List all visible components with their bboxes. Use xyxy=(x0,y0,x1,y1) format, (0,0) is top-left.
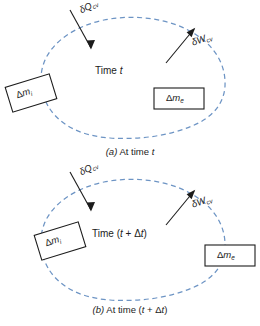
exit-mass-label-a-subscript: e xyxy=(180,97,184,104)
heat-arrow-b xyxy=(70,172,95,212)
caption-a: (a) At time t xyxy=(0,147,260,157)
work-arrow-b xyxy=(166,190,195,225)
caption-b-text: At time (t + Δt) xyxy=(106,304,167,315)
exit-mass-label-b: Δme xyxy=(217,250,235,260)
caption-a-prefix: (a) xyxy=(106,146,118,157)
caption-a-text: At time t xyxy=(119,146,154,157)
time-label-a: Time t xyxy=(95,66,122,76)
caption-b: (b) At time (t + Δt) xyxy=(0,305,260,315)
work-arrow-a xyxy=(166,28,195,63)
control-volume-figure xyxy=(0,0,260,326)
time-label-b: Time (t + Δt) xyxy=(92,229,147,239)
caption-b-prefix: (b) xyxy=(93,304,105,315)
heat-arrow-a xyxy=(70,10,95,50)
exit-mass-label-b-subscript: e xyxy=(231,254,235,261)
time-label-a-variable: t xyxy=(120,65,123,76)
exit-mass-label-a: Δme xyxy=(166,93,184,103)
